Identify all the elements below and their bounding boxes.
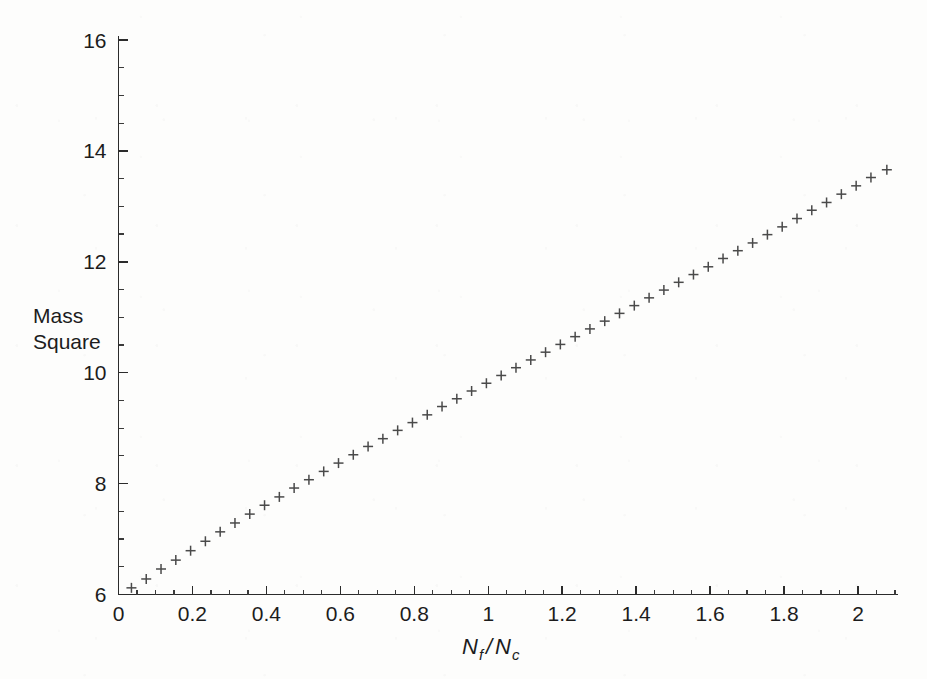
y-tick-label: 10 [83,361,106,384]
data-point-marker [777,222,787,232]
data-point-marker [748,238,758,248]
data-point-marker [363,441,373,451]
data-point-marker [615,308,625,318]
axes-group [119,36,899,595]
x-tick-label: 1.2 [548,602,577,625]
data-point-marker [215,527,225,537]
data-point-marker [141,574,151,584]
data-point-marker [762,230,772,240]
data-point-marker [171,555,181,565]
data-point-series [126,165,891,593]
y-tick-label: 12 [83,250,106,273]
svg-text:f: f [479,646,485,663]
svg-text:N: N [495,634,511,659]
data-point-marker [245,509,255,519]
x-tick-label: 0.4 [252,602,282,625]
data-point-marker [348,450,358,460]
data-point-marker [733,246,743,256]
data-point-marker [629,301,639,311]
x-tick-label: 0.8 [400,602,429,625]
data-point-marker [393,425,403,435]
y-axis-ticks [119,40,128,595]
data-point-marker [822,197,832,207]
x-tick-label: 1.4 [622,602,652,625]
data-point-marker [156,564,166,574]
data-point-marker [866,173,876,183]
x-tick-label: 1 [482,602,494,625]
data-point-marker [126,583,136,593]
data-point-marker [659,285,669,295]
data-point-marker [807,205,817,215]
data-point-marker [644,293,654,303]
y-tick-label: 8 [95,472,107,495]
y-tick-label: 14 [83,139,107,162]
data-point-marker [186,546,196,556]
x-axis-tick-labels: 00.20.40.60.811.21.41.61.82 [113,602,864,625]
x-tick-label: 2 [852,602,864,625]
data-point-marker [467,386,477,396]
data-point-marker [718,253,728,263]
svg-text:/: / [484,634,494,659]
data-point-marker [585,324,595,334]
data-point-marker [334,458,344,468]
data-point-marker [437,402,447,412]
x-tick-label: 0 [113,602,125,625]
data-point-marker [882,165,892,175]
y-tick-label: 16 [83,29,106,52]
data-point-marker [526,355,536,365]
data-point-marker [422,410,432,420]
x-tick-label: 1.6 [695,602,724,625]
data-point-marker [378,434,388,444]
data-point-marker [600,316,610,326]
data-point-marker [570,332,580,342]
x-tick-label: 0.6 [326,602,355,625]
data-point-marker [541,347,551,357]
y-axis-title-line1: Mass [33,304,83,327]
data-point-marker [688,270,698,280]
data-point-marker [200,536,210,546]
x-tick-label: 1.8 [769,602,798,625]
scatter-chart: 6810121416 00.20.40.60.811.21.41.61.82 M… [0,0,927,679]
data-point-marker [319,466,329,476]
data-point-marker [703,262,713,272]
y-axis-tick-labels: 6810121416 [83,29,107,607]
data-point-marker [274,492,284,502]
data-point-marker [452,394,462,404]
data-point-marker [407,418,417,428]
data-point-marker [230,518,240,528]
data-point-marker [260,500,270,510]
data-point-marker [289,483,299,493]
svg-text:N: N [462,634,478,659]
y-axis-title-line2: Square [33,330,101,353]
data-point-marker [481,378,491,388]
data-point-marker [792,214,802,224]
svg-text:c: c [512,646,520,663]
figure-canvas: 6810121416 00.20.40.60.811.21.41.61.82 M… [0,0,927,679]
data-point-marker [674,277,684,287]
data-point-marker [555,339,565,349]
data-point-marker [496,370,506,380]
x-tick-label: 0.2 [178,602,207,625]
data-point-marker [304,475,314,485]
data-point-marker [836,189,846,199]
data-point-marker [511,363,521,373]
x-axis-title: N f / N c [462,634,520,663]
y-tick-label: 6 [95,583,107,606]
data-point-marker [851,181,861,191]
x-axis-ticks [119,586,895,595]
